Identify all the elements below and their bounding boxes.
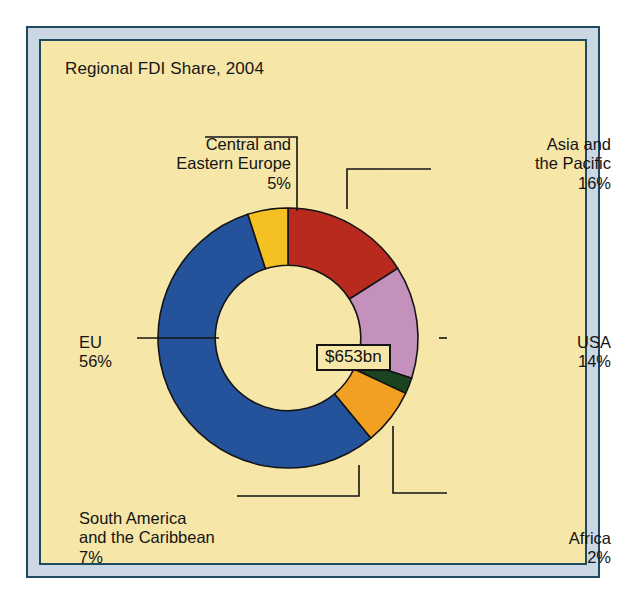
- slice-label-eu: EU 56%: [79, 313, 199, 391]
- slice-label-asia-and-the-pacific: Asia and the Pacific 16%: [471, 115, 611, 213]
- slice-label-pct: 14%: [493, 352, 611, 372]
- figure-outer-frame: Regional FDI Share, 2004: [26, 26, 600, 578]
- slice-label-pct: 2%: [493, 548, 611, 568]
- slice-label-name: Africa: [569, 529, 611, 547]
- figure-root: Regional FDI Share, 2004: [0, 0, 627, 605]
- slice-label-pct: 56%: [79, 352, 199, 372]
- slice-label-usa: USA 14%: [493, 313, 611, 391]
- slice-label-name: South America and the Caribbean: [79, 509, 215, 547]
- slice-label-name: Central and Eastern Europe: [176, 135, 291, 173]
- slice-label-name: USA: [577, 333, 611, 351]
- donut-center-total: $653bn: [316, 344, 391, 371]
- slice-label-pct: 16%: [471, 174, 611, 194]
- leader-line-asia: [347, 169, 379, 209]
- slice-label-pct: 7%: [79, 548, 319, 568]
- slice-label-name: EU: [79, 333, 102, 351]
- slice-label-name: Asia and the Pacific: [535, 135, 611, 173]
- slice-label-central-and-eastern-europe: Central and Eastern Europe 5%: [77, 115, 291, 213]
- slice-label-africa: Africa 2%: [493, 509, 611, 587]
- leader-line-africa: [393, 426, 447, 493]
- figure-inner-panel: Regional FDI Share, 2004: [39, 39, 587, 565]
- slice-label-south-america-and-the-caribbean: South America and the Caribbean 7%: [79, 489, 319, 587]
- slice-label-pct: 5%: [77, 174, 291, 194]
